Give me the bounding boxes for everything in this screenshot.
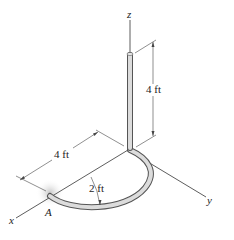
rod-top-end (127, 53, 133, 56)
dim-label-vertical-4ft: 4 ft (146, 83, 161, 95)
dim-extension-bottom (136, 135, 156, 147)
x-axis-label: x (8, 214, 14, 226)
bent-rod-diagram: 4 ft 4 ft 2 ft z x y A (0, 0, 234, 240)
y-axis-label: y (206, 194, 212, 206)
dim-label-radius-2ft: 2 ft (89, 182, 104, 194)
dim-extension-origin (96, 130, 124, 146)
point-a-label: A (44, 206, 52, 218)
z-axis-label: z (126, 8, 132, 20)
dim-label-x-4ft: 4 ft (54, 148, 69, 160)
